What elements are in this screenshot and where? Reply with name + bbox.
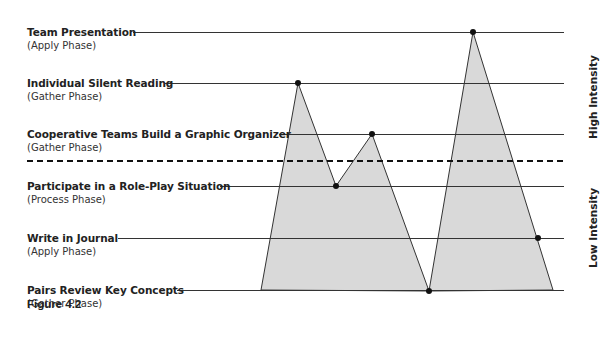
activity-phase: (Apply Phase) <box>27 245 118 258</box>
sequence-dot <box>333 183 339 189</box>
sequence-dot <box>470 29 476 35</box>
sequence-dot <box>369 131 375 137</box>
activity-label-team-presentation: Team Presentation (Apply Phase) <box>27 26 136 52</box>
activity-phase: (Apply Phase) <box>27 39 136 52</box>
activity-phase: (Gather Phase) <box>27 90 173 103</box>
activity-label-write-in-journal: Write in Journal (Apply Phase) <box>27 232 118 258</box>
high-intensity-label: High Intensity <box>587 52 599 142</box>
activity-title: Cooperative Teams Build a Graphic Organi… <box>27 128 291 141</box>
activity-label-individual-silent-reading: Individual Silent Reading (Gather Phase) <box>27 77 173 103</box>
sequence-dot <box>295 80 301 86</box>
activity-title: Individual Silent Reading <box>27 77 173 90</box>
activity-label-cooperative-teams: Cooperative Teams Build a Graphic Organi… <box>27 128 291 154</box>
activity-title: Pairs Review Key Concepts <box>27 284 184 297</box>
activity-title: Write in Journal <box>27 232 118 245</box>
activity-title: Participate in a Role-Play Situation <box>27 180 230 193</box>
activity-phase: (Gather Phase) <box>27 141 291 154</box>
activity-label-role-play: Participate in a Role-Play Situation (Pr… <box>27 180 230 206</box>
figure-caption: Figure 4.2 <box>27 298 81 310</box>
sequence-dot <box>426 288 432 294</box>
activity-phase: (Process Phase) <box>27 193 230 206</box>
activity-title: Team Presentation <box>27 26 136 39</box>
low-intensity-label: Low Intensity <box>587 183 599 273</box>
sequence-dot <box>535 235 541 241</box>
